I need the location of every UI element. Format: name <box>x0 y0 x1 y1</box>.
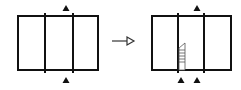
after-bottom-marker-2-icon <box>194 77 201 83</box>
transition-arrow-icon <box>112 37 134 45</box>
before-frame-outline <box>18 16 98 70</box>
transformation-diagram <box>0 0 241 90</box>
hatched-insertion-strip <box>179 43 185 70</box>
after-top-marker-icon <box>194 5 201 11</box>
before-frame <box>18 5 98 83</box>
after-frame-outline <box>152 16 231 70</box>
before-bottom-marker-icon <box>63 77 70 83</box>
after-frame <box>152 5 231 83</box>
after-bottom-marker-1-icon <box>178 77 185 83</box>
before-top-marker-icon <box>63 5 70 11</box>
